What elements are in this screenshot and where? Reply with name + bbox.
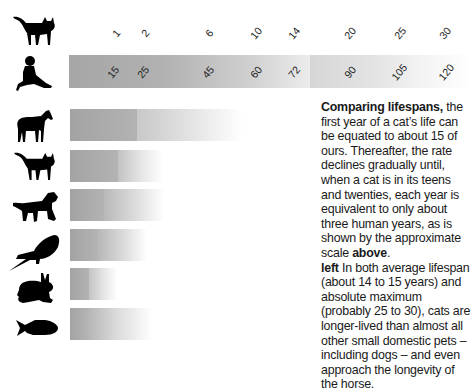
average-lifespan-segment (70, 189, 104, 221)
cat-age-tick: 14 (286, 25, 303, 42)
budgerigar-silhouette-icon (8, 231, 60, 271)
goldfish-silhouette-icon (15, 318, 59, 338)
caption-emphasis: above (352, 246, 387, 260)
cat-age-tick: 10 (248, 25, 265, 42)
caption-heading: Comparing lifespans, (321, 100, 443, 114)
dog-silhouette-icon (12, 189, 58, 223)
caption-body: the first year of a cat’s life can be eq… (321, 100, 463, 260)
average-lifespan-segment (70, 268, 89, 300)
maximum-lifespan-fade (97, 229, 147, 261)
human-age-scale-bar (69, 55, 474, 88)
cat-age-tick: 2 (139, 27, 152, 39)
maximum-lifespan-fade (118, 150, 163, 182)
cat-age-tick: 25 (392, 25, 409, 42)
cat-age-tick: 6 (203, 27, 216, 39)
caption-period: . (387, 246, 390, 260)
caption-text: Comparing lifespans, the first year of a… (321, 100, 474, 392)
cat-age-tick: 1 (110, 27, 123, 39)
average-lifespan-segment (70, 150, 118, 182)
maximum-lifespan-fade (137, 109, 243, 141)
average-lifespan-segment (70, 229, 97, 261)
human-child-silhouette-icon (14, 55, 54, 91)
maximum-lifespan-fade (104, 189, 164, 221)
caption-direction-label: left (321, 261, 339, 275)
average-lifespan-segment (70, 308, 87, 340)
cat-silhouette-icon (13, 149, 57, 183)
caption-body-2: In both average lifespan (about 14 to 15… (321, 261, 470, 392)
cat-age-tick: 30 (437, 25, 454, 42)
average-lifespan-segment (70, 109, 137, 141)
maximum-lifespan-fade (87, 308, 152, 340)
cat-silhouette-icon (12, 13, 57, 48)
rabbit-silhouette-icon (15, 272, 57, 304)
horse-silhouette-icon (16, 109, 54, 143)
maximum-lifespan-fade (89, 268, 117, 300)
cat-age-tick: 20 (342, 25, 359, 42)
